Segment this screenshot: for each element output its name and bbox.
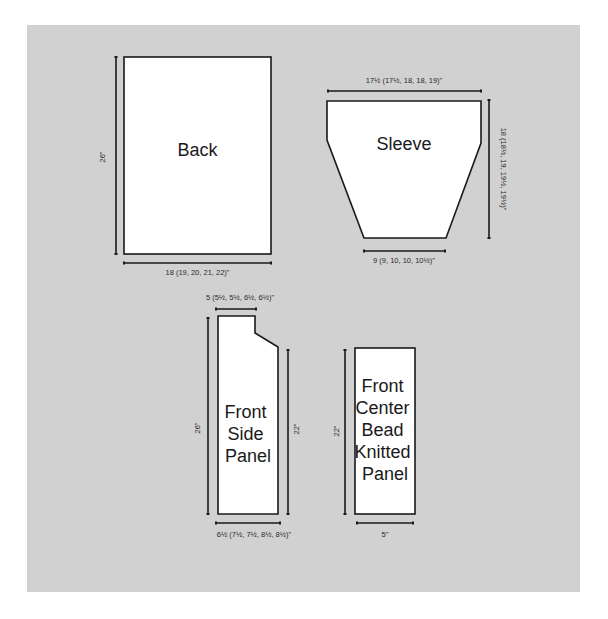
front-side-bottom-width-dimension: 6½ (7½, 7½, 8½, 8½)" <box>215 522 292 540</box>
back-height-label: 26" <box>98 151 107 162</box>
sleeve-top-width-dimension: 17½ (17½, 18, 18, 19)" <box>327 76 482 93</box>
front-side-full-height-dimension: 26" <box>193 317 210 515</box>
sleeve-bottom-width-dimension: 9 (9, 10, 10, 10½)" <box>363 250 446 266</box>
front-side-shoulder-width-dimension: 5 (5½, 5½, 6½, 6½)" <box>206 293 274 311</box>
front-center-width-label: 5" <box>382 530 389 539</box>
sleeve-label: Sleeve <box>376 134 431 154</box>
sleeve-length-label: 18 (18½, 19, 19½, 19½)" <box>499 128 508 211</box>
back-piece: Back 26" 18 (19, 20, 21, 22)" <box>98 56 272 277</box>
knitting-schematic: Back 26" 18 (19, 20, 21, 22)" Sleeve 17½… <box>0 0 608 619</box>
front-side-panel-label: Front Side Panel <box>224 402 271 466</box>
back-width-label: 18 (19, 20, 21, 22)" <box>166 268 230 277</box>
front-side-full-height-label: 26" <box>193 422 202 433</box>
front-center-panel-label: Front Center Bead Knitted Panel <box>354 376 415 484</box>
sleeve-top-width-label: 17½ (17½, 18, 18, 19)" <box>366 76 443 85</box>
front-side-shoulder-width-label: 5 (5½, 5½, 6½, 6½)" <box>206 293 274 302</box>
back-height-dimension: 26" <box>98 56 118 255</box>
front-center-panel-piece: Front Center Bead Knitted Panel 22" 5" <box>332 348 416 539</box>
front-center-width-dimension: 5" <box>356 522 414 540</box>
back-width-dimension: 18 (19, 20, 21, 22)" <box>123 262 272 278</box>
front-side-panel-piece: Front Side Panel 5 (5½, 5½, 6½, 6½)" 26"… <box>193 293 301 539</box>
sleeve-shape <box>327 101 481 238</box>
front-side-side-height-label: 22" <box>292 423 301 434</box>
sleeve-piece: Sleeve 17½ (17½, 18, 18, 19)" 18 (18½, 1… <box>327 76 508 265</box>
front-center-height-label: 22" <box>332 425 341 436</box>
back-label: Back <box>177 140 218 160</box>
front-side-side-height-dimension: 22" <box>287 349 302 515</box>
front-side-bottom-width-label: 6½ (7½, 7½, 8½, 8½)" <box>217 530 292 539</box>
sleeve-bottom-width-label: 9 (9, 10, 10, 10½)" <box>373 256 435 265</box>
front-center-height-dimension: 22" <box>332 349 347 515</box>
sleeve-length-dimension: 18 (18½, 19, 19½, 19½)" <box>488 99 509 239</box>
